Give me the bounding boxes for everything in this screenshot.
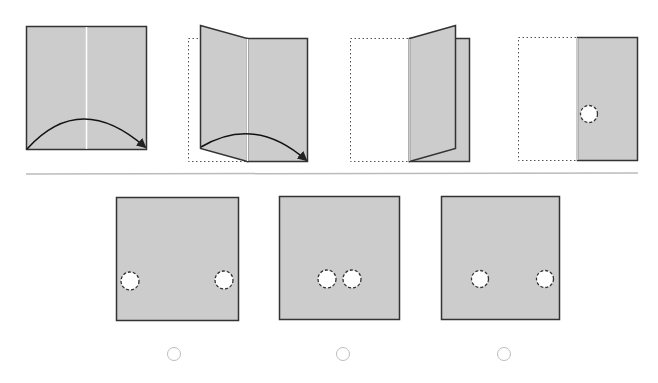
step-1-unfolded-paper bbox=[27, 27, 147, 150]
option-a-radio[interactable] bbox=[167, 347, 181, 361]
option-c-figure bbox=[442, 197, 560, 320]
hole bbox=[215, 271, 233, 289]
hole bbox=[318, 270, 336, 288]
option-b-radio[interactable] bbox=[336, 347, 350, 361]
hole bbox=[343, 270, 361, 288]
hole bbox=[472, 271, 489, 288]
option-c-radio[interactable] bbox=[497, 347, 511, 361]
option-b-figure bbox=[280, 197, 400, 320]
divider bbox=[26, 173, 638, 174]
step-3-nearly-folded bbox=[351, 26, 470, 162]
hole bbox=[121, 272, 139, 290]
punched-hole bbox=[581, 106, 598, 123]
hole bbox=[537, 271, 554, 288]
step-2-folding-in-progress bbox=[189, 26, 308, 162]
step-4-folded-punched bbox=[519, 38, 638, 161]
puzzle-diagram bbox=[0, 0, 658, 383]
option-a-figure bbox=[117, 198, 239, 321]
